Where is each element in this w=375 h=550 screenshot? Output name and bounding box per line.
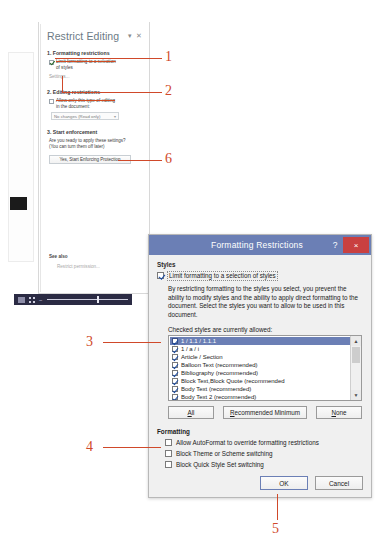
- editing-restrictions-label-line1: Allow only this type of editing: [56, 98, 115, 103]
- zoom-slider[interactable]: [47, 299, 128, 300]
- style-checkbox[interactable]: [172, 378, 178, 384]
- restrict-permission-link[interactable]: Restrict permission...: [57, 263, 141, 270]
- screenshot-root: Restrict Editing ▾ ✕ 1. Formatting restr…: [0, 0, 375, 550]
- style-label: Balloon Text (recommended): [181, 362, 258, 368]
- pane-header: Restrict Editing ▾ ✕: [47, 30, 142, 42]
- see-also-section: See also Restrict permission...: [49, 253, 141, 270]
- style-checkbox[interactable]: [172, 338, 178, 344]
- style-checkbox[interactable]: [172, 386, 178, 392]
- limit-formatting-label-line1: Limit formatting to a selection: [56, 59, 116, 64]
- allow-autoformat-checkbox[interactable]: [165, 439, 172, 446]
- dialog-title: Formatting Restrictions: [149, 240, 327, 250]
- annotation-line-6: [118, 160, 162, 161]
- dialog-description: By restricting formatting to the styles …: [168, 285, 363, 319]
- style-label: 1 / 1.1 / 1.1.1: [181, 338, 216, 344]
- list-item[interactable]: Balloon Text (recommended): [170, 361, 350, 369]
- style-checkbox[interactable]: [172, 362, 178, 368]
- limit-formatting-checkbox-label: Limit formatting to a selection of style…: [167, 271, 278, 281]
- limit-formatting-checkbox[interactable]: [157, 272, 164, 279]
- ok-button[interactable]: OK: [260, 476, 308, 490]
- annotation-vline-2: [62, 76, 63, 93]
- style-label: Body Text 2 (recommended): [181, 394, 256, 400]
- pane-section-3-title: 3. Start enforcement: [47, 129, 142, 136]
- list-item[interactable]: Body Text 2 (recommended): [170, 393, 350, 401]
- list-item[interactable]: Article / Section: [170, 353, 350, 361]
- annotation-number-2: 2: [165, 84, 172, 98]
- limit-formatting-checkbox-row[interactable]: Limit formatting to a selection of style…: [49, 59, 142, 70]
- annotation-line-4: [103, 447, 161, 448]
- chevron-down-icon[interactable]: ▾: [128, 32, 132, 39]
- list-item[interactable]: Bibliography (recommended): [170, 369, 350, 377]
- style-label: Body Text (recommended): [181, 386, 251, 392]
- style-label: 1 / a / i: [181, 346, 199, 352]
- list-item[interactable]: 1 / 1.1 / 1.1.1: [170, 337, 350, 345]
- styles-list[interactable]: 1 / 1.1 / 1.1.1 1 / a / i Article / Sect…: [168, 335, 362, 401]
- list-item[interactable]: Block Text,Block Quote (recommended: [170, 377, 350, 385]
- scroll-down-icon[interactable]: ▼: [351, 390, 361, 400]
- annotation-line-3: [103, 342, 161, 343]
- limit-formatting-checkbox[interactable]: [49, 60, 54, 65]
- limit-formatting-row[interactable]: Limit formatting to a selection of style…: [157, 271, 363, 281]
- style-checkbox[interactable]: [172, 370, 178, 376]
- help-icon[interactable]: ?: [327, 240, 343, 250]
- annotation-number-5: 5: [272, 522, 279, 536]
- limit-formatting-label: Limit formatting to a selection of style…: [56, 59, 116, 70]
- allow-autoformat-row[interactable]: Allow AutoFormat to override formatting …: [165, 439, 363, 446]
- block-theme-label: Block Theme or Scheme switching: [176, 450, 272, 457]
- close-icon[interactable]: ✕: [136, 32, 142, 39]
- pane-section-1-title: 1. Formatting restrictions: [47, 50, 142, 57]
- editing-restrictions-checkbox[interactable]: [49, 99, 54, 104]
- block-quick-style-label: Block Quick Style Set switching: [176, 461, 264, 468]
- pane-title: Restrict Editing: [47, 30, 119, 42]
- style-checkbox[interactable]: [172, 354, 178, 360]
- pane-header-icons: ▾ ✕: [128, 30, 142, 39]
- block-quick-style-checkbox[interactable]: [165, 461, 172, 468]
- formatting-restrictions-dialog: Formatting Restrictions ? × Styles Limit…: [148, 234, 372, 498]
- document-page-thumbnail: [8, 52, 34, 262]
- editing-type-dropdown[interactable]: No changes (Read only) ▾: [51, 112, 119, 120]
- annotation-line-1: [55, 58, 162, 59]
- zoom-out-icon[interactable]: −: [39, 297, 43, 303]
- annotation-number-4: 4: [86, 440, 93, 454]
- style-checkbox[interactable]: [172, 394, 178, 400]
- block-theme-checkbox[interactable]: [165, 450, 172, 457]
- annotation-line-2: [62, 92, 162, 93]
- all-button[interactable]: AAllll: [168, 406, 214, 419]
- see-also-title: See also: [49, 253, 141, 260]
- formatting-group-label: Formatting: [157, 428, 363, 435]
- restrict-editing-pane: Restrict Editing ▾ ✕ 1. Formatting restr…: [40, 24, 148, 292]
- editing-restrictions-label-line2: in the document:: [56, 104, 90, 109]
- zoom-slider-thumb[interactable]: [97, 296, 99, 303]
- dialog-titlebar: Formatting Restrictions ? ×: [149, 235, 371, 255]
- block-theme-row[interactable]: Block Theme or Scheme switching: [165, 450, 363, 457]
- grid-icon[interactable]: [29, 297, 35, 303]
- list-item[interactable]: 1 / a / i: [170, 345, 350, 353]
- none-button[interactable]: None: [316, 406, 362, 419]
- cancel-button[interactable]: Cancel: [315, 476, 363, 490]
- editing-restrictions-checkbox-row[interactable]: Allow only this type of editing in the d…: [49, 98, 142, 109]
- dialog-body: Styles Limit formatting to a selection o…: [149, 255, 371, 468]
- formatting-group: Formatting Allow AutoFormat to override …: [157, 428, 363, 468]
- close-icon[interactable]: ×: [343, 237, 369, 253]
- recommended-minimum-button[interactable]: Recommended Minimum: [223, 406, 307, 419]
- limit-formatting-label-line2: of styles: [56, 65, 73, 70]
- styles-list-scrollbar[interactable]: ▲ ▼: [350, 336, 361, 400]
- editing-type-dropdown-value: No changes (Read only): [54, 114, 100, 119]
- dialog-footer: OK Cancel: [260, 476, 363, 490]
- layout-icon[interactable]: [18, 297, 25, 303]
- style-label: Bibliography (recommended): [181, 370, 258, 376]
- style-label: Article / Section: [181, 354, 223, 360]
- scrollbar-thumb[interactable]: [352, 347, 360, 363]
- annotation-number-1: 1: [165, 50, 172, 64]
- styles-list-label: Checked styles are currently allowed:: [168, 326, 363, 333]
- chevron-down-icon: ▾: [114, 114, 116, 119]
- list-item[interactable]: Body Text (recommended): [170, 385, 350, 393]
- style-checkbox[interactable]: [172, 346, 178, 352]
- styles-list-items: 1 / 1.1 / 1.1.1 1 / a / i Article / Sect…: [169, 336, 350, 400]
- style-label: Block Text,Block Quote (recommended: [181, 378, 285, 384]
- styles-buttons-row: AAllll Recommended Minimum None: [168, 406, 362, 419]
- annotation-number-6: 6: [165, 152, 172, 166]
- scroll-up-icon[interactable]: ▲: [351, 336, 361, 346]
- document-image-block: [10, 197, 27, 210]
- block-quick-style-row[interactable]: Block Quick Style Set switching: [165, 461, 363, 468]
